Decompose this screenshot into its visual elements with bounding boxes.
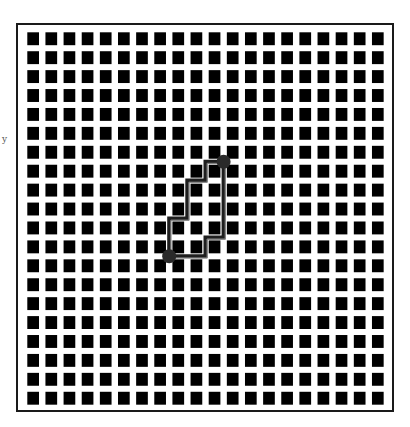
grid-cell — [118, 70, 130, 83]
grid-cell — [209, 32, 221, 45]
grid-cell — [263, 259, 275, 272]
grid-cell — [354, 335, 366, 348]
grid-cell — [45, 222, 57, 235]
grid-cell — [154, 392, 166, 405]
grid-cell — [64, 373, 76, 386]
grid-cell — [299, 392, 311, 405]
grid-cell — [82, 222, 94, 235]
grid-cell — [118, 278, 130, 291]
grid-cell — [281, 127, 293, 140]
grid-cell — [318, 259, 330, 272]
grid-cell — [27, 146, 39, 159]
grid-cell — [118, 222, 130, 235]
grid-cell — [82, 51, 94, 64]
grid-cell — [100, 127, 112, 140]
grid-cell — [227, 278, 239, 291]
grid-cell — [136, 392, 148, 405]
grid-cell — [191, 127, 203, 140]
grid-cell — [172, 89, 184, 102]
grid-cell — [281, 165, 293, 178]
grid-cell — [136, 89, 148, 102]
grid-cell — [100, 373, 112, 386]
grid-cell — [100, 354, 112, 367]
grid-cell — [354, 222, 366, 235]
grid-cell — [27, 127, 39, 140]
grid-cell — [45, 89, 57, 102]
grid-cell — [100, 278, 112, 291]
grid-cell — [209, 278, 221, 291]
grid-cell — [263, 278, 275, 291]
grid-cell — [318, 51, 330, 64]
grid-cell — [136, 32, 148, 45]
grid-cell — [245, 89, 257, 102]
grid-cell — [82, 127, 94, 140]
grid-cell — [27, 184, 39, 197]
grid-cell — [45, 51, 57, 64]
grid-cell — [281, 184, 293, 197]
grid-cell — [299, 259, 311, 272]
grid-cell — [318, 335, 330, 348]
grid-cell — [191, 335, 203, 348]
grid-cell — [209, 259, 221, 272]
grid-cell — [263, 392, 275, 405]
grid-cell — [45, 203, 57, 216]
grid-cell — [299, 127, 311, 140]
grid-cell — [154, 354, 166, 367]
grid-cell — [45, 297, 57, 310]
grid-cell — [45, 32, 57, 45]
grid-cell — [64, 354, 76, 367]
grid-cell — [82, 278, 94, 291]
grid-cell — [118, 240, 130, 253]
grid-cell — [154, 259, 166, 272]
grid-cell — [336, 32, 348, 45]
grid-cell — [172, 335, 184, 348]
grid-cell — [45, 335, 57, 348]
grid-cell — [372, 373, 384, 386]
grid-cell — [154, 278, 166, 291]
grid-cell — [154, 51, 166, 64]
grid-cell — [209, 373, 221, 386]
grid-cell — [227, 108, 239, 121]
grid-cell — [227, 127, 239, 140]
grid-cell — [299, 222, 311, 235]
grid-cell — [64, 89, 76, 102]
grid-cell — [227, 354, 239, 367]
grid-cell — [372, 354, 384, 367]
grid-cell — [136, 278, 148, 291]
grid-cell — [27, 70, 39, 83]
grid-cell — [263, 184, 275, 197]
grid-cell — [227, 297, 239, 310]
grid-cell — [299, 335, 311, 348]
grid-cell — [45, 108, 57, 121]
grid-cell — [100, 89, 112, 102]
grid-cell — [45, 392, 57, 405]
grid-cell — [336, 184, 348, 197]
grid-cell — [336, 297, 348, 310]
grid-cell — [118, 392, 130, 405]
grid-cell — [263, 354, 275, 367]
grid-cell — [318, 203, 330, 216]
grid-cell — [209, 70, 221, 83]
grid-cell — [336, 108, 348, 121]
grid-cell — [299, 297, 311, 310]
grid-cell — [372, 278, 384, 291]
grid-cell — [263, 316, 275, 329]
grid-cell — [45, 70, 57, 83]
grid-cell — [118, 32, 130, 45]
grid-cell — [136, 316, 148, 329]
grid-cell — [263, 70, 275, 83]
grid-cell — [172, 165, 184, 178]
grid-cell — [100, 51, 112, 64]
grid-cell — [191, 297, 203, 310]
grid-cell — [372, 335, 384, 348]
grid-cell — [64, 335, 76, 348]
grid-cell — [336, 259, 348, 272]
grid-cell — [245, 70, 257, 83]
grid-cell — [191, 165, 203, 178]
grid-cell — [281, 146, 293, 159]
grid-cell — [209, 184, 221, 197]
grid-cell — [354, 354, 366, 367]
grid-cell — [318, 108, 330, 121]
grid-cell — [209, 335, 221, 348]
grid-cell — [372, 51, 384, 64]
